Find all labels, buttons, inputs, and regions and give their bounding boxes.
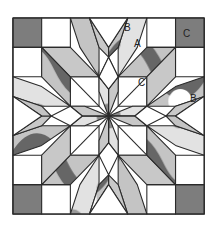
label-a: A (134, 38, 141, 49)
corner-square-bl (13, 185, 42, 214)
quilt-block-diagram: B A C C B (0, 0, 217, 231)
label-b-right: B (190, 93, 197, 104)
corner-square-tl (13, 18, 42, 47)
label-c-square: C (138, 77, 145, 88)
corner-square-br (176, 185, 205, 214)
label-c-corner: C (183, 28, 190, 39)
label-b-top: B (124, 22, 131, 33)
